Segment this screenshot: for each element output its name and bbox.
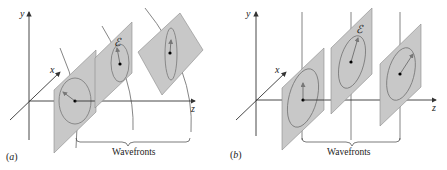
x-axis-label: x	[274, 64, 280, 75]
wavefronts-caption: Wavefronts	[327, 147, 371, 157]
x-axis-label: x	[49, 64, 55, 75]
x-axis	[236, 72, 286, 120]
panel-label: (a)	[6, 151, 18, 163]
z-axis-label: z	[190, 103, 195, 114]
field-label: ℰ	[114, 36, 122, 48]
y-axis-label: y	[19, 8, 25, 19]
panel-a: y x z ℰ Wavefronts (a)	[6, 8, 203, 163]
wavefront-diagram: y x z ℰ Wavefronts (a) y x	[0, 0, 447, 170]
panel-label: (b)	[230, 149, 242, 161]
wavefronts-brace	[76, 138, 190, 146]
y-axis-label: y	[245, 8, 251, 19]
panel-b: y x z ℰ Wavefronts (b)	[230, 8, 436, 161]
wavefront-plane	[95, 22, 132, 108]
field-label: ℰ	[356, 23, 364, 35]
z-axis-label: z	[431, 102, 436, 113]
x-axis	[10, 72, 60, 120]
wavefronts-caption: Wavefronts	[112, 147, 156, 157]
